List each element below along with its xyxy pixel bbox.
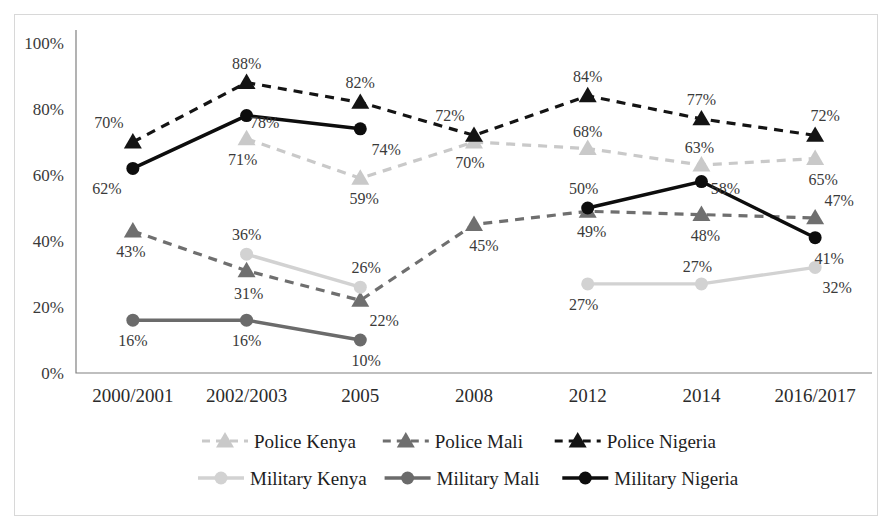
series-marker-circle — [215, 472, 228, 485]
series-marker-circle — [354, 334, 367, 347]
series-marker-triangle — [465, 216, 483, 231]
data-point-label: 36% — [232, 226, 261, 243]
series-marker-circle — [354, 281, 367, 294]
chart-container: 0%20%40%60%80%100% 71%59%70%68%63%65%43%… — [0, 0, 892, 531]
series-marker-triangle — [238, 74, 256, 89]
series-marker-triangle — [692, 156, 710, 171]
legend-label: Military Kenya — [250, 468, 367, 489]
series-marker-triangle — [351, 93, 369, 108]
data-point-label: 10% — [352, 352, 381, 369]
data-point-label: 74% — [372, 141, 401, 158]
data-point-label: 16% — [118, 332, 147, 349]
data-point-label: 88% — [232, 55, 261, 72]
y-axis-tick-labels: 0%20%40%60%80%100% — [24, 34, 64, 383]
data-point-label: 70% — [94, 114, 123, 131]
x-axis-category-label: 2008 — [455, 385, 493, 406]
data-point-label: 72% — [435, 107, 464, 124]
legend-item[interactable]: Military Nigeria — [562, 468, 739, 489]
data-point-label: 22% — [370, 312, 399, 329]
data-point-label: 77% — [687, 91, 716, 108]
data-point-label: 78% — [250, 114, 279, 131]
legend-label: Military Mali — [437, 468, 540, 489]
series-line — [247, 254, 361, 287]
series-marker-circle — [126, 162, 139, 175]
data-point-label: 27% — [683, 258, 712, 275]
series-marker-circle — [401, 472, 414, 485]
chart-legend: Police KenyaPolice MaliPolice NigeriaMil… — [198, 431, 739, 489]
data-point-label: 84% — [573, 68, 602, 85]
data-point-label: 68% — [573, 123, 602, 140]
legend-label: Police Mali — [435, 431, 523, 452]
series-marker-triangle — [806, 150, 824, 165]
legend-item[interactable]: Police Mali — [383, 431, 523, 452]
series-marker-circle — [695, 277, 708, 290]
data-point-label: 41% — [814, 250, 843, 267]
x-axis-category-label: 2014 — [682, 385, 721, 406]
x-axis-category-labels: 2000/20012002/200320052008201220142016/2… — [92, 385, 856, 406]
data-point-label: 71% — [228, 151, 257, 168]
x-axis-category-label: 2012 — [569, 385, 607, 406]
y-axis-tick-label: 20% — [33, 298, 64, 317]
legend-item[interactable]: Police Kenya — [202, 431, 356, 452]
series-marker-circle — [240, 314, 253, 327]
chart-series — [238, 130, 825, 185]
x-axis-category-label: 2002/2003 — [206, 385, 287, 406]
data-point-label: 49% — [577, 223, 606, 240]
data-point-label: 31% — [234, 285, 263, 302]
y-axis-tick-label: 0% — [41, 364, 64, 383]
series-marker-triangle — [124, 222, 142, 237]
chart-svg: 0%20%40%60%80%100% 71%59%70%68%63%65%43%… — [0, 0, 892, 531]
data-point-label: 26% — [352, 259, 381, 276]
series-marker-triangle — [124, 133, 142, 148]
series-marker-circle — [579, 472, 592, 485]
chart-series-group — [124, 74, 824, 347]
legend-item[interactable]: Military Mali — [385, 468, 540, 489]
data-point-label: 62% — [92, 180, 121, 197]
series-marker-circle — [809, 231, 822, 244]
data-point-label: 70% — [455, 154, 484, 171]
data-point-label: 48% — [691, 227, 720, 244]
legend-item[interactable]: Police Nigeria — [555, 431, 717, 452]
data-point-label: 47% — [824, 192, 853, 209]
data-point-label: 32% — [822, 279, 851, 296]
series-marker-triangle — [579, 140, 597, 155]
data-point-label: 50% — [569, 180, 598, 197]
data-point-label: 65% — [808, 171, 837, 188]
series-marker-circle — [354, 122, 367, 135]
data-point-label: 45% — [469, 237, 498, 254]
data-point-label: 27% — [569, 296, 598, 313]
x-axis-category-label: 2005 — [341, 385, 379, 406]
data-point-label: 72% — [810, 107, 839, 124]
chart-series — [124, 202, 824, 307]
data-point-label: 82% — [346, 74, 375, 91]
data-point-label: 63% — [685, 139, 714, 156]
legend-label: Military Nigeria — [614, 468, 739, 489]
data-point-label: 59% — [350, 190, 379, 207]
y-axis-tick-label: 60% — [33, 166, 64, 185]
series-line — [247, 139, 816, 179]
series-marker-circle — [695, 175, 708, 188]
data-point-label: 58% — [711, 180, 740, 197]
y-axis-tick-label: 40% — [33, 232, 64, 251]
series-marker-triangle — [238, 130, 256, 145]
series-marker-circle — [581, 202, 594, 215]
y-axis-tick-label: 80% — [33, 100, 64, 119]
x-axis-category-label: 2000/2001 — [92, 385, 173, 406]
chart-series — [240, 248, 822, 294]
series-marker-circle — [240, 248, 253, 261]
chart-series — [124, 74, 824, 149]
legend-label: Police Nigeria — [607, 431, 717, 452]
series-marker-circle — [126, 314, 139, 327]
legend-item[interactable]: Military Kenya — [198, 468, 367, 489]
legend-label: Police Kenya — [254, 431, 356, 452]
series-marker-circle — [581, 277, 594, 290]
data-point-label: 43% — [116, 243, 145, 260]
x-axis-category-label: 2016/2017 — [775, 385, 856, 406]
data-point-label: 16% — [232, 332, 261, 349]
series-marker-triangle — [579, 87, 597, 102]
y-axis-tick-label: 100% — [24, 34, 64, 53]
